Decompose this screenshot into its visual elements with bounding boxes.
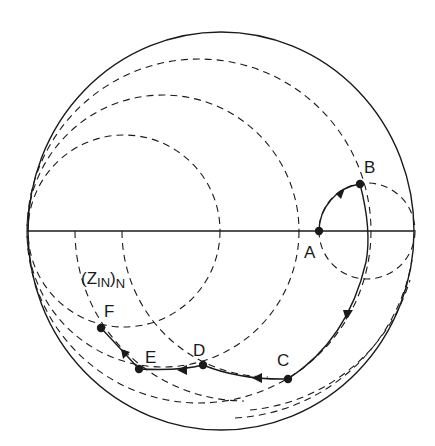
transformation-path xyxy=(101,184,368,379)
admittance-arc-lower-1 xyxy=(250,280,410,410)
arrow-a-b-icon xyxy=(336,188,345,199)
admittance-arc-lower-2 xyxy=(235,260,412,418)
zin-sub-n: N xyxy=(116,276,125,291)
point-e-label: E xyxy=(145,348,156,367)
segment-c-d xyxy=(203,365,288,379)
point-f-marker xyxy=(97,324,105,332)
point-b-label: B xyxy=(364,158,375,177)
point-d-marker xyxy=(199,361,207,369)
point-e-marker xyxy=(135,365,143,373)
point-c-marker xyxy=(284,375,292,383)
zin-z: Z xyxy=(87,269,97,288)
point-d-label: D xyxy=(193,341,205,360)
point-c-label: C xyxy=(277,351,289,370)
smith-chart-diagram: A B C D E F (ZIN)N xyxy=(0,0,435,446)
point-b-marker xyxy=(356,180,364,188)
zin-sub-in: IN xyxy=(97,275,110,290)
segment-e-f xyxy=(101,328,139,369)
admittance-arcs xyxy=(75,231,412,418)
segment-b-c xyxy=(288,184,368,379)
admittance-arc-left xyxy=(75,231,244,401)
point-f-label: F xyxy=(104,302,114,321)
point-a-marker xyxy=(315,227,323,235)
point-a-label: A xyxy=(304,243,316,262)
normalized-input-impedance-label: (ZIN)N xyxy=(81,269,125,291)
arrow-c-d-icon xyxy=(252,373,262,383)
